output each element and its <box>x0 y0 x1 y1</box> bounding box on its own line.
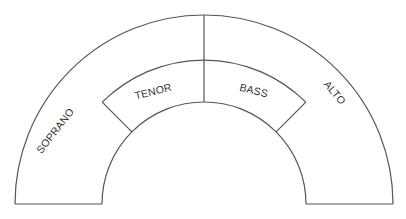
seating-svg: SOPRANO TENOR BASS ALTO <box>0 0 406 219</box>
tenor-label: TENOR <box>133 81 173 102</box>
inner-arc <box>102 102 306 204</box>
alto-label: ALTO <box>322 78 349 107</box>
bass-right-divider <box>276 102 306 132</box>
soprano-label: SOPRANO <box>34 106 77 156</box>
choir-seating-diagram: SOPRANO TENOR BASS ALTO <box>0 0 406 219</box>
bass-label: BASS <box>239 81 270 100</box>
tenor-left-divider <box>102 102 132 132</box>
